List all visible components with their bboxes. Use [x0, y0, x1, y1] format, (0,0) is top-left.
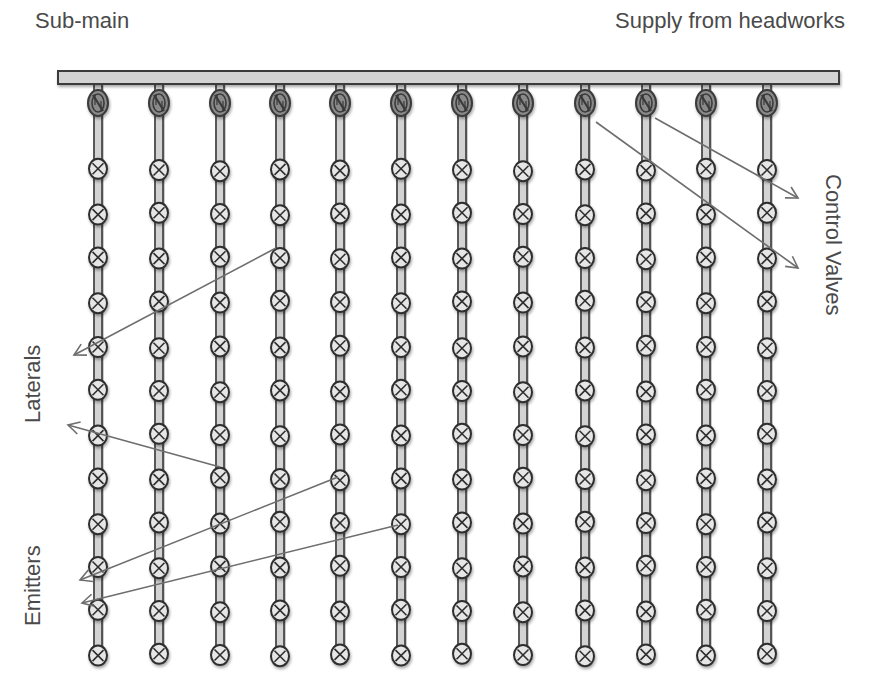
- emitter-icon: [576, 469, 594, 489]
- emitter-icon: [392, 426, 410, 446]
- emitter-icon: [89, 514, 107, 534]
- emitter-icon: [514, 514, 532, 534]
- emitter-icon: [150, 249, 168, 269]
- emitter-icon: [758, 512, 776, 532]
- emitter-icon: [576, 512, 594, 532]
- emitter-icon: [89, 159, 107, 179]
- emitter-icon: [453, 601, 471, 621]
- emitter-icon: [576, 646, 594, 666]
- emitter-icon: [576, 600, 594, 620]
- emitter-icon: [392, 557, 410, 577]
- emitter-icon: [331, 556, 349, 576]
- emitter-icon: [576, 205, 594, 225]
- emitters-group: [89, 159, 776, 666]
- emitter-icon: [514, 468, 532, 488]
- emitter-icon: [758, 558, 776, 578]
- laterals-label: Laterals: [20, 345, 46, 423]
- emitters-callout-arrow: [80, 477, 338, 582]
- emitter-icon: [392, 159, 410, 179]
- emitter-icon: [271, 469, 289, 489]
- emitter-icon: [637, 556, 655, 576]
- emitter-icon: [150, 203, 168, 223]
- emitter-icon: [453, 160, 471, 180]
- emitter-icon: [453, 644, 471, 664]
- laterals-group: [94, 84, 771, 655]
- emitter-icon: [576, 380, 594, 400]
- emitter-icon: [697, 426, 715, 446]
- emitter-icon: [331, 203, 349, 223]
- emitter-icon: [271, 380, 289, 400]
- emitter-icon: [150, 644, 168, 664]
- emitter-icon: [271, 159, 289, 179]
- emitter-icon: [576, 291, 594, 311]
- emitter-icon: [89, 600, 107, 620]
- emitters-callout-arrow: [82, 525, 398, 606]
- emitter-icon: [514, 556, 532, 576]
- callout-arrows-group: [68, 118, 798, 606]
- emitter-icon: [697, 337, 715, 357]
- emitter-icon: [331, 336, 349, 356]
- emitter-icon: [697, 514, 715, 534]
- emitter-icon: [637, 513, 655, 533]
- emitter-icon: [637, 470, 655, 490]
- emitter-icon: [514, 247, 532, 267]
- emitter-icon: [89, 557, 107, 577]
- emitter-icon: [331, 161, 349, 181]
- emitter-icon: [453, 291, 471, 311]
- emitter-icon: [392, 293, 410, 313]
- emitter-icon: [331, 249, 349, 269]
- emitter-icon: [637, 203, 655, 223]
- drip-irrigation-layout: [0, 0, 885, 696]
- emitter-icon: [453, 470, 471, 490]
- emitter-icon: [150, 424, 168, 444]
- emitter-icon: [211, 293, 229, 313]
- emitter-icon: [697, 293, 715, 313]
- emitters-label: Emitters: [20, 545, 46, 626]
- emitter-icon: [637, 602, 655, 622]
- emitter-icon: [514, 336, 532, 356]
- control-valves-callout-arrow: [655, 118, 798, 198]
- emitter-icon: [331, 602, 349, 622]
- emitter-icon: [697, 600, 715, 620]
- emitter-icon: [392, 514, 410, 534]
- emitter-icon: [514, 293, 532, 313]
- emitter-icon: [89, 468, 107, 488]
- emitter-icon: [758, 644, 776, 664]
- emitter-icon: [514, 161, 532, 181]
- emitter-icon: [271, 291, 289, 311]
- emitter-icon: [89, 293, 107, 313]
- emitter-icon: [453, 338, 471, 358]
- emitter-icon: [89, 646, 107, 666]
- emitter-icon: [453, 381, 471, 401]
- emitter-icon: [697, 557, 715, 577]
- emitter-icon: [89, 205, 107, 225]
- control-valves-label: Control Valves: [820, 174, 846, 315]
- emitter-icon: [758, 249, 776, 269]
- control-valve-icon: [391, 90, 411, 116]
- emitter-icon: [453, 203, 471, 223]
- control-valve-icon: [452, 90, 472, 116]
- emitter-icon: [331, 292, 349, 312]
- emitter-icon: [211, 645, 229, 665]
- emitter-icon: [392, 247, 410, 267]
- emitter-icon: [697, 247, 715, 267]
- emitter-icon: [211, 382, 229, 402]
- control-valve-icon: [88, 90, 108, 116]
- emitter-icon: [271, 205, 289, 225]
- emitter-icon: [150, 291, 168, 311]
- emitter-icon: [150, 338, 168, 358]
- emitter-icon: [211, 556, 229, 576]
- emitter-icon: [453, 424, 471, 444]
- emitter-icon: [211, 602, 229, 622]
- sub-main-label: Sub-main: [35, 8, 129, 34]
- emitter-icon: [89, 337, 107, 357]
- emitter-icon: [150, 381, 168, 401]
- emitter-icon: [150, 512, 168, 532]
- emitter-icon: [637, 644, 655, 664]
- emitter-icon: [89, 380, 107, 400]
- emitter-icon: [271, 426, 289, 446]
- emitter-icon: [576, 426, 594, 446]
- emitter-icon: [150, 160, 168, 180]
- emitter-icon: [637, 292, 655, 312]
- emitter-icon: [331, 382, 349, 402]
